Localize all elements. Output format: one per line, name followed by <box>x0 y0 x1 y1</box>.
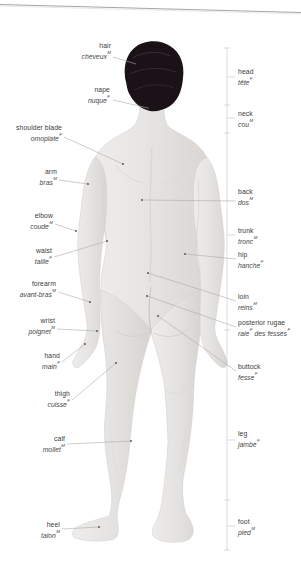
term-fr: hancheF <box>238 259 264 270</box>
gender-marker: F <box>255 371 258 376</box>
term-en: hair <box>82 41 112 50</box>
term-fr: coudeM <box>30 220 53 231</box>
label-thigh: thigh cuisseF <box>48 389 70 409</box>
label-waist: waist tailleF <box>35 246 52 266</box>
gender-marker: M <box>249 118 253 123</box>
term-fr: tailleF <box>35 255 52 266</box>
label-posterior-rugae: posterior rugae raieFdes fessesF <box>238 318 290 338</box>
label-wrist: wrist poignetM <box>29 316 55 336</box>
term-fr: cheveuxM <box>82 50 112 61</box>
term-en: foot <box>238 517 255 526</box>
gender-marker: M <box>53 176 57 181</box>
label-leg: leg jambeF <box>238 429 260 449</box>
term-en: waist <box>35 246 52 255</box>
label-forearm: forearm avant-brasM <box>20 279 56 299</box>
term-en: thigh <box>48 389 70 398</box>
term-en: hip <box>238 250 264 259</box>
left-arm-shape <box>73 157 107 368</box>
term-fr: fesseF <box>238 371 261 382</box>
term-fr: jambeF <box>238 438 260 449</box>
gender-marker: M <box>107 50 111 55</box>
term-fr: brasM <box>40 176 57 187</box>
term-en: head <box>238 67 254 76</box>
leader-elbow <box>55 224 76 231</box>
hair-shape <box>125 41 184 111</box>
gender-marker: M <box>52 288 56 293</box>
term-fr: cuisseF <box>48 398 70 409</box>
gender-marker: M <box>251 526 255 531</box>
label-loin: loin reinsM <box>238 292 257 312</box>
term-en: buttock <box>238 362 261 371</box>
left-leg-shape <box>73 290 151 541</box>
label-back: back dosM <box>238 187 253 207</box>
gender-marker: M <box>49 220 53 225</box>
gender-marker: M <box>249 196 253 201</box>
label-trunk: trunk troncM <box>238 226 257 246</box>
term-fr: talonM <box>41 529 60 540</box>
term-fr: raieFdes fessesF <box>238 327 290 338</box>
label-neck: neck couM <box>238 109 253 129</box>
anatomy-back-view-page: hair cheveuxM nape nuqueF shoulder blade… <box>0 0 301 565</box>
term-fr: dosM <box>238 196 253 207</box>
term-en: calf <box>43 434 65 443</box>
term-fr: reinsM <box>238 301 257 312</box>
term-en: elbow <box>30 211 53 220</box>
gender-marker: M <box>51 325 55 330</box>
gender-marker: M <box>253 301 257 306</box>
term-en: loin <box>238 292 257 301</box>
label-hair: hair cheveuxM <box>82 41 112 61</box>
label-arm: arm brasM <box>40 167 57 187</box>
gender-marker: M <box>56 529 60 534</box>
term-en: trunk <box>238 226 257 235</box>
term-fr: avant-brasM <box>20 288 56 299</box>
label-heel: heel talonM <box>41 520 60 540</box>
term-fr: troncM <box>238 235 257 246</box>
term-fr: mainF <box>42 360 60 371</box>
label-buttock: buttock fesseF <box>238 362 261 382</box>
term-fr: piedM <box>238 526 255 537</box>
term-fr: molletM <box>43 443 65 454</box>
gender-marker: F <box>250 76 253 81</box>
term-en: posterior rugae <box>238 318 290 327</box>
gender-marker: F <box>67 398 70 403</box>
right-leg-shape <box>151 290 201 542</box>
label-hand: hand mainF <box>42 351 60 371</box>
term-en: back <box>238 187 253 196</box>
leader-arm <box>59 180 88 184</box>
term-en: forearm <box>20 279 56 288</box>
term-fr: omoplateF <box>16 132 62 143</box>
gender-marker: M <box>254 235 258 240</box>
label-calf: calf molletM <box>43 434 65 454</box>
label-head: head têteF <box>238 67 254 87</box>
label-nape: nape nuqueF <box>88 85 110 105</box>
gender-marker: F <box>250 327 253 332</box>
gender-marker: F <box>257 438 260 443</box>
label-foot: foot piedM <box>238 517 255 537</box>
term-en: hand <box>42 351 60 360</box>
term-en: neck <box>238 109 253 118</box>
term-en: wrist <box>29 316 55 325</box>
term-fr: nuqueF <box>88 94 110 105</box>
label-elbow: elbow coudeM <box>30 211 53 231</box>
gender-marker: F <box>49 255 52 260</box>
gender-marker: F <box>57 360 60 365</box>
label-hip: hip hancheF <box>238 250 264 270</box>
gender-marker: F <box>107 94 110 99</box>
gender-marker: M <box>61 443 65 448</box>
term-en: leg <box>238 429 260 438</box>
term-fr: couM <box>238 118 253 129</box>
term-fr: poignetM <box>29 325 55 336</box>
page-edge-shadow-line <box>0 6 301 14</box>
page-edge-line <box>0 5 301 13</box>
term-fr: têteF <box>238 76 254 87</box>
term-en: shoulder blade <box>16 123 62 132</box>
term-en: nape <box>88 85 110 94</box>
gender-marker: F <box>288 327 291 332</box>
gender-marker: F <box>261 259 264 264</box>
term-en: heel <box>41 520 60 529</box>
label-shoulder-blade: shoulder blade omoplateF <box>16 123 62 143</box>
term-en: arm <box>40 167 57 176</box>
gender-marker: F <box>59 132 62 137</box>
